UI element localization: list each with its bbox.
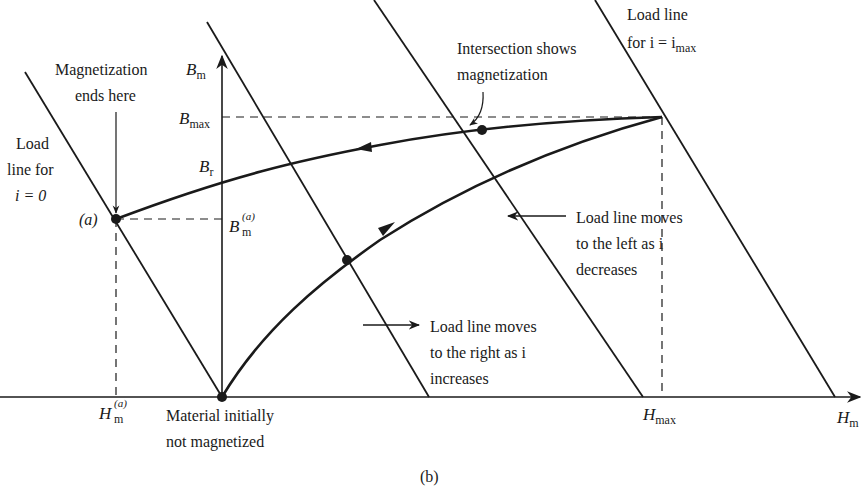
svg-text:to the right as i: to the right as i [430,344,527,362]
magnetization-ends-annotation: Magnetization ends here [55,61,147,104]
svg-text:i = 0: i = 0 [15,187,46,204]
b-axis-label: Bm [186,60,206,82]
b-a-subscript: m [242,225,252,239]
rising-direction-arrow-icon [378,222,395,236]
figure-caption: (b) [420,468,439,486]
origin-point [217,392,227,402]
h-axis-label: Hm [836,408,859,430]
intersection-annotation: Intersection shows magnetization [457,40,577,84]
svg-text:not magnetized: not magnetized [166,433,264,451]
load-line-i-max [595,0,835,397]
intersection-arrow [470,92,483,125]
svg-text:ends here: ends here [75,87,136,104]
svg-text:magnetization: magnetization [457,66,548,84]
b-a-label: B [229,217,240,236]
moves-left-annotation: Load line moves to the left as i decreas… [576,209,683,278]
svg-text:for i = imax: for i = imax [627,34,696,55]
h-max-label: Hmax [642,405,676,427]
svg-text:Load: Load [16,135,49,152]
svg-text:Load line: Load line [627,6,688,23]
h-a-label: H [98,404,113,423]
svg-text:increases: increases [430,370,489,387]
magnetization-diagram: Bm Hm Bmax Br B m (a) H m (a) Hmax (a) M… [0,0,867,488]
load-line-i-max-annotation: Load line for i = imax [627,6,696,55]
svg-text:Intersection shows: Intersection shows [457,40,577,57]
svg-text:Material initially: Material initially [166,407,274,425]
b-a-superscript: (a) [242,210,255,223]
initial-state-annotation: Material initially not magnetized [166,407,274,451]
svg-text:line for: line for [7,161,54,178]
intersection-point [477,125,487,135]
moves-right-annotation: Load line moves to the right as i increa… [430,318,537,387]
dashed-guides [116,117,662,397]
load-line-intermediate-2 [374,0,643,397]
svg-text:Load line moves: Load line moves [576,209,683,226]
h-a-subscript: m [114,412,124,426]
load-line-i-zero-annotation: Load line for i = 0 [7,135,54,204]
rising-curve-point [342,255,352,265]
point-a-label: (a) [79,211,98,229]
svg-text:decreases: decreases [576,261,637,278]
falling-direction-arrow-icon [356,142,372,152]
point-a [111,214,121,224]
h-a-superscript: (a) [114,397,127,410]
falling-demagnetization-curve [116,117,662,219]
b-max-label: Bmax [179,109,210,131]
svg-text:Magnetization: Magnetization [55,61,147,79]
svg-text:to the left as i: to the left as i [576,235,664,252]
load-line-intermediate-1 [207,22,429,397]
svg-text:Load line moves: Load line moves [430,318,537,335]
b-r-label: Br [199,157,213,179]
